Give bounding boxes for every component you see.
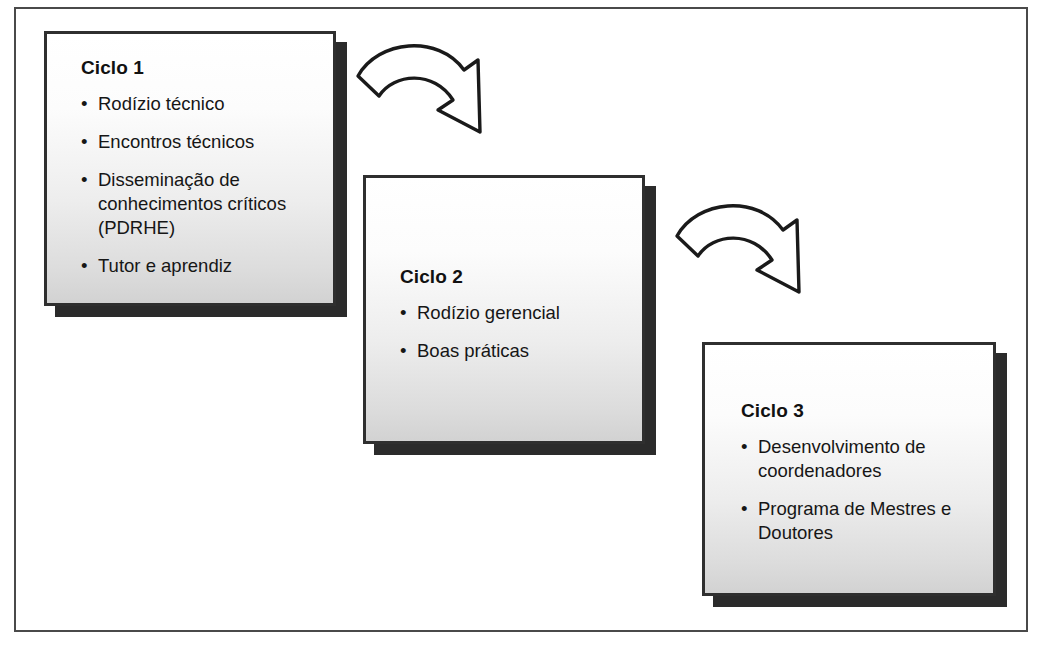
list-item-label: Disseminação de conhecimentos críticos (…: [98, 169, 286, 238]
box-body: Ciclo 3 • Desenvolvimento de coordenador…: [702, 342, 996, 596]
list-item-label: Rodízio gerencial: [417, 302, 560, 323]
bullet-dot-icon: •: [81, 92, 87, 116]
box-body: Ciclo 2 • Rodízio gerencial • Boas práti…: [363, 175, 645, 444]
list-item-label: Rodízio técnico: [98, 93, 224, 114]
list-item: • Desenvolvimento de coordenadores: [741, 435, 979, 483]
bullet-dot-icon: •: [81, 130, 87, 154]
box-title: Ciclo 2: [400, 266, 622, 288]
bullet-dot-icon: •: [400, 301, 406, 325]
list-item: • Boas práticas: [400, 339, 622, 363]
box-title: Ciclo 3: [741, 400, 979, 422]
list-item-label: Tutor e aprendiz: [98, 255, 232, 276]
list-item-label: Boas práticas: [417, 340, 529, 361]
bullet-dot-icon: •: [741, 435, 747, 459]
bullet-dot-icon: •: [81, 168, 87, 192]
list-item: • Disseminação de conhecimentos críticos…: [81, 168, 313, 240]
cycle-box-ciclo-2: Ciclo 2 • Rodízio gerencial • Boas práti…: [363, 175, 645, 444]
list-item: • Rodízio técnico: [81, 92, 313, 116]
box-bullet-list: • Desenvolvimento de coordenadores • Pro…: [741, 435, 979, 545]
box-title: Ciclo 1: [81, 57, 313, 79]
list-item: • Encontros técnicos: [81, 130, 313, 154]
box-content: Ciclo 2 • Rodízio gerencial • Boas práti…: [366, 266, 642, 363]
cycle-box-ciclo-1: Ciclo 1 • Rodízio técnico • Encontros té…: [44, 31, 336, 306]
list-item-label: Encontros técnicos: [98, 131, 254, 152]
curved-arrow-icon: [352, 36, 492, 176]
box-content: Ciclo 3 • Desenvolvimento de coordenador…: [705, 400, 993, 545]
cycle-box-ciclo-3: Ciclo 3 • Desenvolvimento de coordenador…: [702, 342, 996, 596]
curved-arrow-icon: [671, 196, 811, 336]
box-bullet-list: • Rodízio gerencial • Boas práticas: [400, 301, 622, 363]
list-item: • Programa de Mestres e Doutores: [741, 497, 979, 545]
list-item: • Tutor e aprendiz: [81, 254, 313, 278]
list-item: • Rodízio gerencial: [400, 301, 622, 325]
list-item-label: Programa de Mestres e Doutores: [758, 498, 951, 543]
bullet-dot-icon: •: [400, 339, 406, 363]
box-bullet-list: • Rodízio técnico • Encontros técnicos •…: [81, 92, 313, 278]
bullet-dot-icon: •: [81, 254, 87, 278]
box-body: Ciclo 1 • Rodízio técnico • Encontros té…: [44, 31, 336, 306]
box-content: Ciclo 1 • Rodízio técnico • Encontros té…: [47, 57, 333, 278]
diagram-canvas: Ciclo 1 • Rodízio técnico • Encontros té…: [0, 0, 1044, 652]
bullet-dot-icon: •: [741, 497, 747, 521]
list-item-label: Desenvolvimento de coordenadores: [758, 436, 926, 481]
